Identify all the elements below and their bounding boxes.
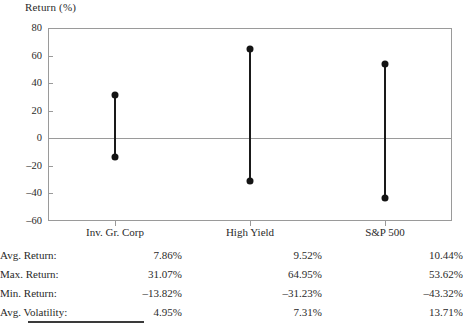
- table-row-label: Max. Return:: [0, 264, 100, 283]
- y-axis-tick-label: 20: [0, 106, 42, 116]
- y-axis-tick-label: 40: [0, 78, 42, 88]
- y-axis-tick: [48, 83, 53, 84]
- table-row-label: Avg. Volatility:: [0, 302, 100, 321]
- min-return-marker: [381, 195, 388, 202]
- y-axis-tick-label: –60: [0, 216, 42, 226]
- table-row: Max. Return:31.07%64.95%53.62%: [0, 264, 463, 283]
- table-cell-sp500: 13.71%: [322, 302, 463, 321]
- y-axis-tick-label: –20: [0, 161, 42, 171]
- table-cell-high-yield: 9.52%: [182, 245, 322, 264]
- table-cell-high-yield: 64.95%: [182, 264, 322, 283]
- range-bar: [114, 95, 116, 157]
- table-cell-high-yield: 7.31%: [182, 302, 322, 321]
- min-return-marker: [247, 178, 254, 185]
- table-cell-inv-gr-corp: 31.07%: [100, 264, 182, 283]
- y-axis-tick-label: 60: [0, 51, 42, 61]
- max-return-marker: [381, 61, 388, 68]
- x-axis-category-label: Inv. Gr. Corp: [86, 226, 144, 238]
- figure: Return (%) 806040200–20–40–60 Inv. Gr. C…: [0, 0, 463, 329]
- table-cell-sp500: –43.32%: [322, 283, 463, 302]
- statistics-table: Avg. Return:7.86%9.52%10.44%Max. Return:…: [0, 245, 463, 321]
- y-axis-tick: [48, 56, 53, 57]
- table-cell-high-yield: –31.23%: [182, 283, 322, 302]
- x-axis-category-label: High Yield: [226, 226, 274, 238]
- table-row-label: Min. Return:: [0, 283, 100, 302]
- min-return-marker: [112, 154, 119, 161]
- max-return-marker: [112, 92, 119, 99]
- table-cell-inv-gr-corp: 4.95%: [100, 302, 182, 321]
- y-axis-tick: [48, 193, 53, 194]
- table-row: Avg. Return:7.86%9.52%10.44%: [0, 245, 463, 264]
- table-cell-sp500: 10.44%: [322, 245, 463, 264]
- table-bottom-rule: [28, 321, 144, 323]
- table-cell-sp500: 53.62%: [322, 264, 463, 283]
- table-row: Min. Return:–13.82%–31.23%–43.32%: [0, 283, 463, 302]
- x-axis-category-label: S&P 500: [365, 226, 405, 238]
- table-row-label: Avg. Return:: [0, 245, 100, 264]
- table-cell-inv-gr-corp: 7.86%: [100, 245, 182, 264]
- y-axis-tick-label: 0: [0, 133, 42, 143]
- range-bar: [384, 64, 386, 198]
- y-axis-tick-label: –40: [0, 188, 42, 198]
- table-cell-inv-gr-corp: –13.82%: [100, 283, 182, 302]
- max-return-marker: [247, 45, 254, 52]
- y-axis-tick: [48, 166, 53, 167]
- table-row: Avg. Volatility:4.95%7.31%13.71%: [0, 302, 463, 321]
- y-axis-tick: [48, 111, 53, 112]
- y-axis-title: Return (%): [25, 1, 76, 13]
- y-axis-tick-label: 80: [0, 23, 42, 33]
- range-bar: [249, 49, 251, 182]
